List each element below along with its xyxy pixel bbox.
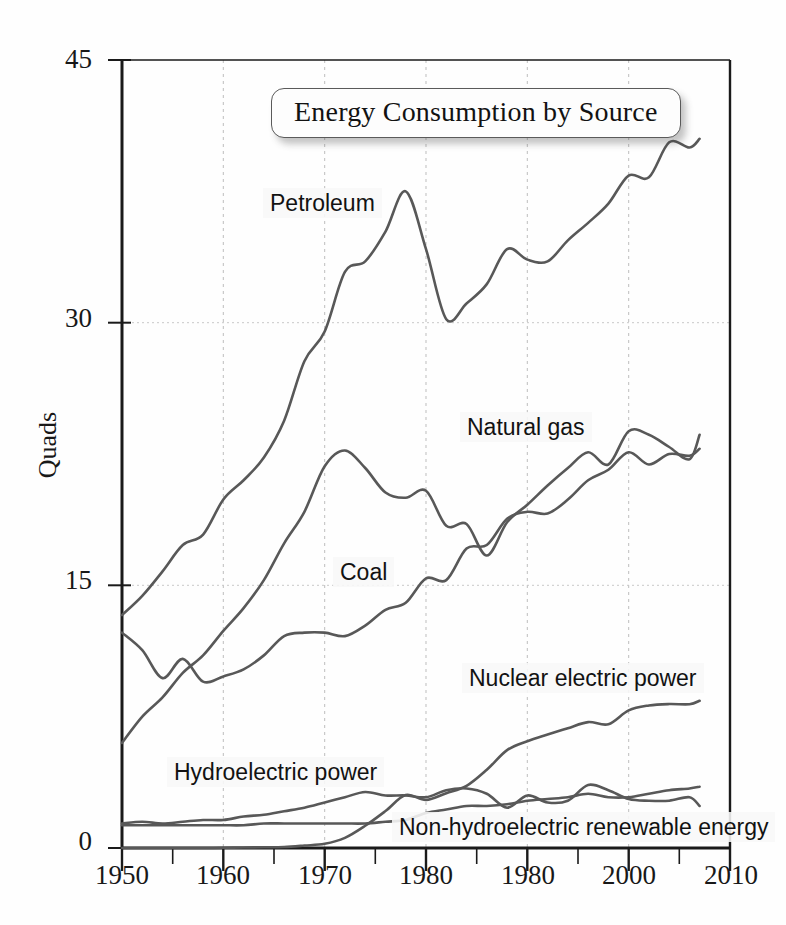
series-label-petroleum: Petroleum xyxy=(263,188,382,218)
series-label-nonhydro: Non-hydroelectric renewable energy xyxy=(392,812,775,842)
y-tick-marks xyxy=(108,60,131,848)
data-curves xyxy=(122,139,700,848)
series-label-coal: Coal xyxy=(333,557,394,587)
series-line-natural-gas xyxy=(122,429,700,743)
series-label-nuclear: Nuclear electric power xyxy=(462,663,704,693)
x-tick-marks xyxy=(122,848,730,871)
series-label-natural-gas: Natural gas xyxy=(460,412,592,442)
series-line-petroleum xyxy=(122,139,700,615)
plot-area xyxy=(0,0,786,925)
chart-figure: 45 30 15 0 Quads 1950 1960 1970 1980 198… xyxy=(0,0,786,925)
chart-title: Energy Consumption by Source xyxy=(271,88,681,138)
grid-vertical xyxy=(223,60,628,848)
series-label-hydro: Hydroelectric power xyxy=(167,757,384,787)
